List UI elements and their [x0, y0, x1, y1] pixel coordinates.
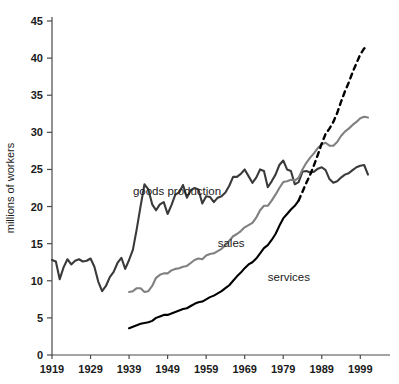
- y-tick-label: 5: [37, 312, 43, 324]
- x-tick-label: 1939: [117, 363, 141, 375]
- chart-container: 0510152025303540451919192919391949195919…: [0, 0, 399, 384]
- y-tick-label: 40: [31, 52, 43, 64]
- x-tick-label: 1949: [155, 363, 179, 375]
- y-tick-label: 10: [31, 275, 43, 287]
- x-tick-label: 1929: [78, 363, 102, 375]
- y-tick-label: 0: [37, 349, 43, 361]
- y-tick-label: 30: [31, 126, 43, 138]
- y-tick-label: 20: [31, 201, 43, 213]
- y-tick-label: 25: [31, 163, 43, 175]
- y-tick-label: 45: [31, 15, 43, 27]
- y-axis-title: millions of workers: [4, 142, 16, 233]
- line-chart: 0510152025303540451919192919391949195919…: [0, 0, 399, 384]
- y-tick-label: 15: [31, 238, 43, 250]
- series-label-services: services: [268, 271, 310, 283]
- x-tick-label: 1919: [40, 363, 64, 375]
- series-line-goods-production: [52, 161, 368, 292]
- x-tick-label: 1989: [310, 363, 334, 375]
- x-tick-label: 1959: [194, 363, 218, 375]
- series-line-dashed-services: [299, 46, 368, 200]
- x-tick-label: 1979: [271, 363, 295, 375]
- x-tick-label: 1969: [232, 363, 256, 375]
- series-label-sales: sales: [218, 237, 245, 249]
- series-label-goods-production: goods production: [133, 185, 221, 197]
- series-line-services: [129, 201, 299, 329]
- y-tick-label: 35: [31, 89, 43, 101]
- x-tick-label: 1999: [348, 363, 372, 375]
